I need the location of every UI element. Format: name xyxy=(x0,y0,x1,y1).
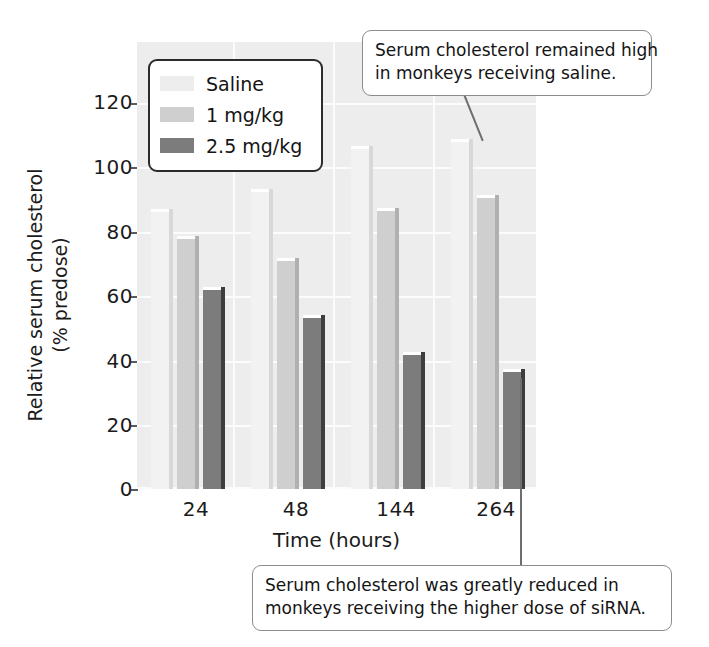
bar-2p5mgkg-144[interactable] xyxy=(403,352,425,489)
y-tick-label-120: 120 xyxy=(53,90,133,114)
bar-body xyxy=(277,261,295,489)
y-tick-mark-0 xyxy=(131,489,138,491)
callout-bottom-line2: monkeys receiving the higher dose of siR… xyxy=(265,597,659,620)
bar-side xyxy=(169,209,173,489)
bar-body xyxy=(477,198,495,489)
callout-top: Serum cholesterol remained high in monke… xyxy=(362,30,652,96)
bar-side xyxy=(395,208,399,489)
bar-saline-264[interactable] xyxy=(451,139,473,489)
bar-side xyxy=(521,369,525,489)
x-tick-label-144: 144 xyxy=(341,497,451,521)
bar-group-144 xyxy=(351,42,447,489)
bar-body xyxy=(203,290,221,489)
legend-item-saline[interactable]: Saline xyxy=(160,68,311,99)
bar-1mgkg-144[interactable] xyxy=(377,208,399,489)
chart-legend: Saline 1 mg/kg 2.5 mg/kg xyxy=(148,59,323,172)
legend-swatch-2p5mgkg-icon xyxy=(160,138,194,153)
y-axis-title: Relative serum cholesterol (% predose) xyxy=(23,130,73,460)
bar-side xyxy=(369,146,373,489)
bar-body xyxy=(177,239,195,489)
bar-2p5mgkg-24[interactable] xyxy=(203,287,225,489)
bar-body xyxy=(503,372,521,489)
bar-side xyxy=(295,258,299,489)
bar-saline-144[interactable] xyxy=(351,146,373,489)
bar-body xyxy=(451,142,469,489)
bar-side xyxy=(469,139,473,489)
bar-body xyxy=(351,149,369,489)
legend-label-saline: Saline xyxy=(206,73,264,95)
bar-side xyxy=(269,189,273,489)
legend-item-1mgkg[interactable]: 1 mg/kg xyxy=(160,99,311,130)
bar-body xyxy=(251,192,269,489)
bar-1mgkg-264[interactable] xyxy=(477,195,499,489)
legend-label-2p5mgkg: 2.5 mg/kg xyxy=(206,135,302,157)
bar-1mgkg-48[interactable] xyxy=(277,258,299,489)
x-axis-title: Time (hours) xyxy=(137,528,536,552)
bar-body xyxy=(151,212,169,489)
bar-2p5mgkg-264[interactable] xyxy=(503,369,525,489)
callout-top-line1: Serum cholesterol remained high xyxy=(375,39,639,62)
callout-top-line2: in monkeys receiving saline. xyxy=(375,62,639,85)
bar-2p5mgkg-48[interactable] xyxy=(303,315,325,489)
bar-body xyxy=(303,318,321,489)
callout-bottom-leader-line xyxy=(520,378,522,570)
legend-item-2p5mgkg[interactable]: 2.5 mg/kg xyxy=(160,130,311,161)
bar-saline-48[interactable] xyxy=(251,189,273,489)
callout-bottom: Serum cholesterol was greatly reduced in… xyxy=(252,565,672,631)
legend-label-1mgkg: 1 mg/kg xyxy=(206,104,284,126)
bar-1mgkg-24[interactable] xyxy=(177,236,199,489)
y-axis-title-line2: (% predose) xyxy=(48,130,73,460)
bar-side xyxy=(321,315,325,489)
chart-page: 120 100 80 60 40 20 0 Relative serum cho… xyxy=(0,0,709,647)
callout-bottom-line1: Serum cholesterol was greatly reduced in xyxy=(265,574,659,597)
bar-saline-24[interactable] xyxy=(151,209,173,489)
x-tick-label-264: 264 xyxy=(441,497,551,521)
x-tick-label-24: 24 xyxy=(141,497,251,521)
bar-body xyxy=(403,355,421,489)
legend-swatch-1mgkg-icon xyxy=(160,107,194,122)
bar-side xyxy=(495,195,499,489)
legend-swatch-saline-icon xyxy=(160,76,194,91)
bar-side xyxy=(221,287,225,489)
bar-side xyxy=(195,236,199,489)
y-tick-label-0: 0 xyxy=(53,477,133,501)
x-tick-label-48: 48 xyxy=(241,497,351,521)
y-axis-title-line1: Relative serum cholesterol xyxy=(24,168,46,421)
bar-side xyxy=(421,352,425,489)
bar-group-264 xyxy=(451,42,547,489)
bar-body xyxy=(377,211,395,489)
